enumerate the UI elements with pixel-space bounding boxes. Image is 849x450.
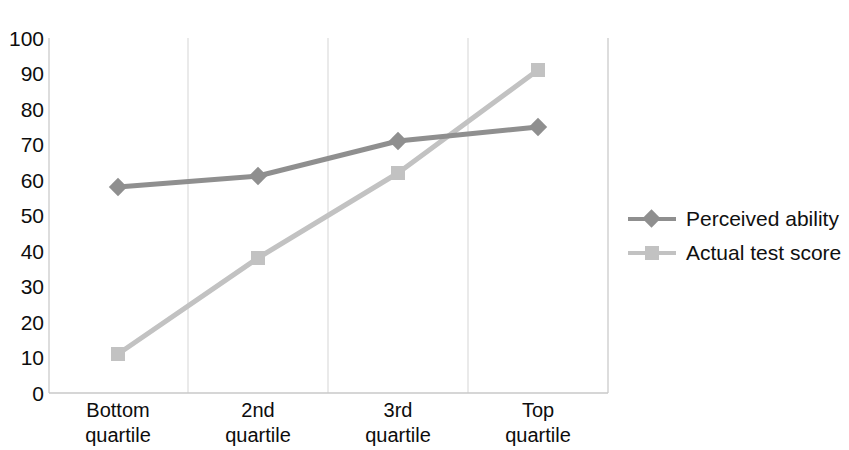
x-axis-tick-line2: quartile bbox=[188, 423, 328, 448]
legend-label: Perceived ability bbox=[686, 208, 839, 230]
chart-container: 100 90 80 70 60 50 40 30 20 10 0 bbox=[0, 0, 849, 450]
x-axis-tick-line1: 3rd bbox=[328, 398, 468, 423]
data-point-marker bbox=[111, 347, 125, 361]
chart-legend: Perceived ability Actual test score bbox=[628, 198, 849, 270]
x-axis-tick-label-top-quartile: Top quartile bbox=[468, 398, 608, 448]
data-point-marker bbox=[251, 251, 265, 265]
data-point-marker bbox=[529, 118, 547, 136]
x-axis-tick-line2: quartile bbox=[48, 423, 188, 448]
data-point-marker bbox=[389, 132, 407, 150]
legend-swatch-square-icon bbox=[628, 242, 676, 264]
x-axis-tick-line2: quartile bbox=[468, 423, 608, 448]
data-point-marker bbox=[531, 63, 545, 77]
x-axis-tick-line1: Top bbox=[468, 398, 608, 423]
legend-swatch-diamond-icon bbox=[628, 208, 676, 230]
x-axis-tick-line1: 2nd bbox=[188, 398, 328, 423]
x-axis-tick-label-2nd-quartile: 2nd quartile bbox=[188, 398, 328, 448]
x-axis-tick-label-3rd-quartile: 3rd quartile bbox=[328, 398, 468, 448]
data-point-marker bbox=[249, 167, 267, 185]
data-point-marker bbox=[391, 166, 405, 180]
legend-label: Actual test score bbox=[686, 242, 841, 264]
x-axis-tick-label-bottom-quartile: Bottom quartile bbox=[48, 398, 188, 448]
data-point-marker bbox=[109, 178, 127, 196]
x-axis-tick-labels: Bottom quartile 2nd quartile 3rd quartil… bbox=[0, 398, 849, 450]
x-axis-tick-line1: Bottom bbox=[48, 398, 188, 423]
x-axis-tick-line2: quartile bbox=[328, 423, 468, 448]
legend-entry-perceived-ability: Perceived ability bbox=[628, 204, 839, 234]
legend-entry-actual-test-score: Actual test score bbox=[628, 238, 841, 268]
